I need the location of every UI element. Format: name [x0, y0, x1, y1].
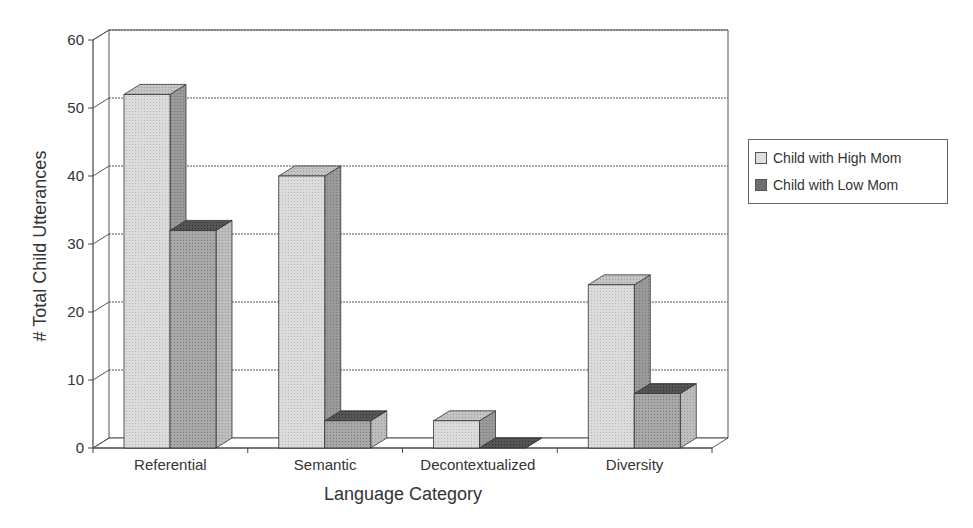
y-tick-label: 40 — [67, 167, 84, 184]
legend-label-high: Child with High Mom — [773, 150, 901, 166]
y-tick-label: 10 — [67, 371, 84, 388]
legend-label-low: Child with Low Mom — [773, 177, 898, 193]
x-axis-title: Language Category — [324, 484, 482, 504]
y-tick-label: 30 — [67, 235, 84, 252]
y-axis-title: # Total Child Utterances — [30, 151, 50, 342]
bar-diversity-low — [634, 384, 696, 448]
legend-swatch-high — [755, 152, 767, 164]
x-tick-label: Referential — [134, 456, 207, 473]
legend-swatch-low — [755, 179, 767, 191]
legend-item-high: Child with High Mom — [755, 150, 901, 166]
legend-item-low: Child with Low Mom — [755, 177, 898, 193]
y-tick-label: 50 — [67, 99, 84, 116]
y-tick-label: 0 — [76, 439, 84, 456]
x-tick-label: Diversity — [606, 456, 664, 473]
bar-referential-low — [170, 220, 232, 448]
y-tick-label: 60 — [67, 31, 84, 48]
bar-semantic-high — [279, 166, 341, 448]
bar-decontextualized-high — [434, 411, 496, 448]
bar-chart: 0102030405060ReferentialSemanticDecontex… — [0, 0, 973, 528]
y-tick-label: 20 — [67, 303, 84, 320]
x-tick-label: Semantic — [294, 456, 357, 473]
x-tick-label: Decontextualized — [420, 456, 535, 473]
legend: Child with High Mom Child with Low Mom — [748, 139, 948, 204]
bar-semantic-low — [325, 411, 387, 448]
